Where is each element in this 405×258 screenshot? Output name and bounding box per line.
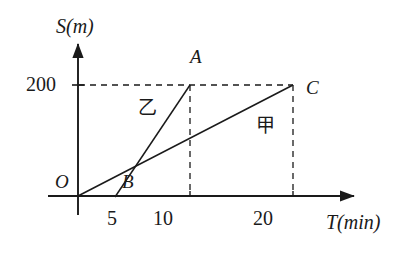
point-label-a: A: [190, 47, 202, 66]
origin-label: O: [55, 172, 69, 191]
y-axis-title: S(m): [56, 16, 94, 36]
x-tick-label-20: 20: [253, 208, 273, 228]
x-tick-label-10: 10: [153, 208, 173, 228]
series-line-jia: [78, 85, 293, 196]
series-label-yi: 乙: [138, 98, 157, 117]
y-tick-label-200: 200: [26, 74, 56, 94]
x-axis-title: T(min): [326, 212, 380, 232]
point-label-b: B: [122, 172, 134, 191]
figure-canvas: S(m) T(min) O 200 5 10 20 A B C 乙 甲: [0, 0, 405, 258]
series-label-jia: 甲: [256, 116, 275, 135]
x-tick-label-5: 5: [107, 208, 117, 228]
point-label-c: C: [306, 78, 319, 97]
